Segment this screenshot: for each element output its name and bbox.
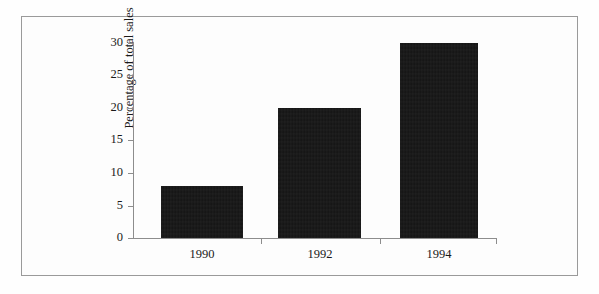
x-tick-label-1992: 1992 [290, 248, 350, 261]
y-tick-25 [128, 75, 133, 76]
y-tick-label-10: 10 [103, 166, 123, 179]
y-axis-title: Percentage of total sales [121, 0, 137, 153]
x-tick-label-1994: 1994 [409, 248, 469, 261]
y-axis-line [133, 42, 134, 239]
y-tick-20 [128, 108, 133, 109]
y-tick-label-0: 0 [103, 231, 123, 244]
y-tick-label-15: 15 [103, 133, 123, 146]
plot-area: Percentage of total sales 30 25 20 15 10… [0, 0, 599, 294]
y-tick-label-25: 25 [103, 68, 123, 81]
y-tick-5 [128, 206, 133, 207]
bar-1990 [161, 186, 243, 238]
y-tick-label-30: 30 [103, 36, 123, 49]
chart-figure: Percentage of total sales 30 25 20 15 10… [0, 0, 599, 294]
y-tick-0 [128, 238, 133, 239]
x-tick-label-1990: 1990 [172, 248, 232, 261]
bar-1992 [278, 108, 361, 238]
bar-1994 [400, 43, 478, 238]
y-tick-30 [128, 43, 133, 44]
y-tick-label-20: 20 [103, 101, 123, 114]
y-tick-10 [128, 173, 133, 174]
x-tick-3 [496, 238, 497, 244]
x-tick-2 [380, 238, 381, 244]
y-tick-15 [128, 140, 133, 141]
x-axis-line [133, 238, 497, 239]
y-tick-label-5: 5 [103, 199, 123, 212]
x-tick-1 [261, 238, 262, 244]
